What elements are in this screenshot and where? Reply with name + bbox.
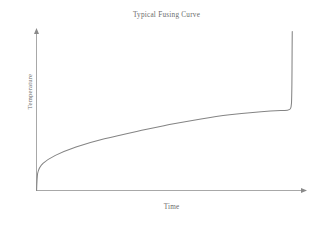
fusing-curve-line <box>37 32 293 191</box>
chart-figure: Typical Fusing Curve Temperature Time <box>0 0 333 228</box>
plot-area <box>0 0 333 228</box>
y-axis-arrowhead <box>34 28 39 34</box>
axes-group <box>34 28 307 193</box>
x-axis-label: Time <box>36 203 307 211</box>
x-axis-arrowhead <box>301 188 307 193</box>
y-axis-label: Temperature <box>26 57 33 127</box>
data-series-group <box>37 32 293 191</box>
